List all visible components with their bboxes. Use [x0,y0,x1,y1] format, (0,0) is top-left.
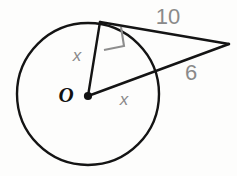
center-label: O [58,83,73,107]
radius-lower-label: x [119,90,129,109]
radius-to-tangent-line [88,22,100,96]
radius-upper-label: x [72,46,82,65]
right-angle-marker-icon [104,27,124,50]
external-segment-label: 6 [185,60,197,85]
tangent-length-label: 10 [156,4,180,29]
geometry-figure: O x x 10 6 [0,0,237,176]
center-point-dot [84,92,92,100]
geometry-diagram: O x x 10 6 [0,0,237,176]
